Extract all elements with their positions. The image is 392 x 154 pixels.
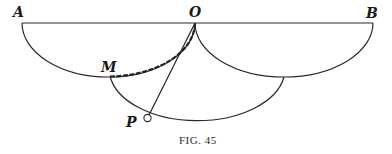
point-P-marker [144,114,151,121]
label-P: P [125,114,137,130]
label-O: O [189,4,202,20]
semicircle-OB [195,23,373,77]
label-A: A [11,4,24,20]
figure-caption: FIG. 45 [179,134,217,146]
label-B: B [365,5,378,21]
segment-OP [149,23,195,115]
label-M: M [100,59,117,75]
geometry-figure: A O B M P FIG. 45 [0,0,392,154]
